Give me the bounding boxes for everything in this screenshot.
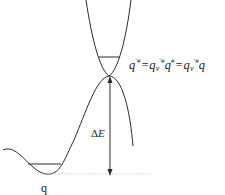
delta-e-label: ΔE <box>91 127 105 139</box>
potential-energy-diagram <box>0 0 225 195</box>
partition-function-formula: q'#=qv'#q#=qv'#q <box>129 57 205 73</box>
upper-parabola <box>86 0 131 76</box>
arrow-up-head-icon <box>108 76 113 83</box>
reactant-q-label: q <box>41 181 47 195</box>
arrow-down-head-icon <box>108 169 113 176</box>
lower-potential-curve <box>3 76 133 174</box>
